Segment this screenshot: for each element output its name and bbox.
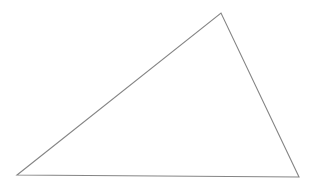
triangle-outline [17,13,299,177]
triangle-svg [0,0,327,193]
figure-canvas [0,0,327,193]
